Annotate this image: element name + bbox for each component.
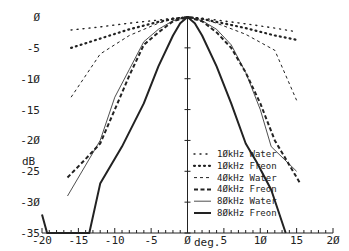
chart: Ø-5-1Ø-15-2Ø-25-3Ø-35 -20-15-10-5Ø51Ø152… <box>0 0 349 251</box>
x-tick-label: 2Ø <box>326 234 340 247</box>
x-axis-label: deg. <box>194 236 221 249</box>
x-tick-label: 5 <box>221 234 228 247</box>
y-axis-label: dB <box>22 155 36 168</box>
y-tick-label: -3Ø <box>20 196 40 209</box>
x-tick-label: 1Ø <box>254 234 268 247</box>
x-tick-label: -10 <box>105 234 125 247</box>
y-tick-label: -1Ø <box>20 73 40 86</box>
x-tick-label: -15 <box>68 234 88 247</box>
legend: 1ØkHz Water1ØkHz Freon4ØkHz Water4ØkHz F… <box>194 149 277 218</box>
y-tick-label: -5 <box>27 42 40 55</box>
legend-label: 1ØkHz Freon <box>217 161 277 171</box>
legend-label: 8ØkHz Water <box>217 196 277 206</box>
legend-label: 1ØkHz Water <box>217 149 277 159</box>
x-tick-label: -5 <box>145 234 158 247</box>
y-tick-labels: Ø-5-1Ø-15-2Ø-25-3Ø-35 <box>20 11 40 240</box>
legend-label: 4ØkHz Water <box>217 173 277 183</box>
series-line <box>71 17 297 100</box>
y-tick-label: -15 <box>20 104 40 117</box>
x-tick-label: -20 <box>32 234 52 247</box>
axes <box>42 17 333 233</box>
x-tick-label: Ø <box>184 234 191 247</box>
legend-label: 8ØkHz Freon <box>217 208 277 218</box>
y-tick-label: Ø <box>33 11 40 24</box>
x-tick-labels: -20-15-10-5Ø51Ø152Ø <box>32 234 340 247</box>
x-tick-label: 15 <box>290 234 303 247</box>
legend-label: 4ØkHz Freon <box>217 184 277 194</box>
y-tick-label: -2Ø <box>20 134 40 147</box>
